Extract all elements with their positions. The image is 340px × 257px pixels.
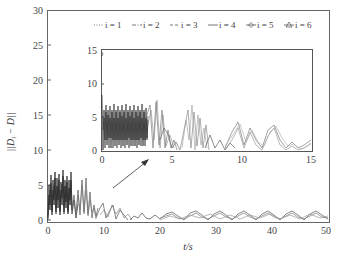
x-axis-labels: 0 10 20 30 40 50 (46, 225, 332, 236)
x-tick-0: 0 (46, 225, 51, 236)
inset-x-tick-10: 10 (237, 154, 247, 165)
y-tick-5: 5 (38, 180, 43, 191)
x-tick-20: 20 (155, 225, 165, 236)
y-axis-labels: 0 5 10 15 20 25 30 (33, 5, 43, 226)
inset-x-tick-0: 0 (100, 154, 105, 165)
main-series (48, 170, 328, 220)
y-tick-15: 15 (33, 110, 43, 121)
inset-x-tick-15: 15 (306, 154, 316, 165)
inset-plot: 15 10 5 0 0 5 10 15 (87, 45, 316, 165)
triangle-marker-icon (286, 22, 292, 27)
legend: i = 1 i = 2 i = 3 i = 4 i = 5 i = 6 (94, 20, 312, 30)
y-tick-10: 10 (33, 145, 43, 156)
x-tick-10: 10 (99, 225, 109, 236)
y-tick-0: 0 (38, 215, 43, 226)
legend-i2: i = 2 (143, 20, 160, 30)
inset-x-tick-5: 5 (170, 154, 175, 165)
y-axis-label: ||Di − D|| (5, 112, 18, 151)
y-tick-30: 30 (33, 5, 43, 16)
x-tick-40: 40 (267, 225, 277, 236)
zoom-arrow (113, 159, 149, 188)
y-tick-25: 25 (33, 40, 43, 51)
inset-y-tick-15: 15 (87, 45, 97, 56)
x-tick-50: 50 (321, 225, 331, 236)
legend-i1: i = 1 (105, 20, 122, 30)
x-axis-label: t/s (183, 241, 193, 252)
chart-canvas: 0 5 10 15 20 25 30 0 10 20 30 40 50 t/s … (0, 0, 340, 257)
y-tick-20: 20 (33, 75, 43, 86)
legend-i6: i = 6 (295, 20, 312, 30)
legend-i4: i = 4 (219, 20, 236, 30)
x-tick-30: 30 (211, 225, 221, 236)
inset-y-tick-0: 0 (92, 145, 97, 156)
legend-i5: i = 5 (257, 20, 274, 30)
inset-y-tick-5: 5 (92, 112, 97, 123)
inset-y-tick-10: 10 (87, 78, 97, 89)
legend-i3: i = 3 (181, 20, 198, 30)
